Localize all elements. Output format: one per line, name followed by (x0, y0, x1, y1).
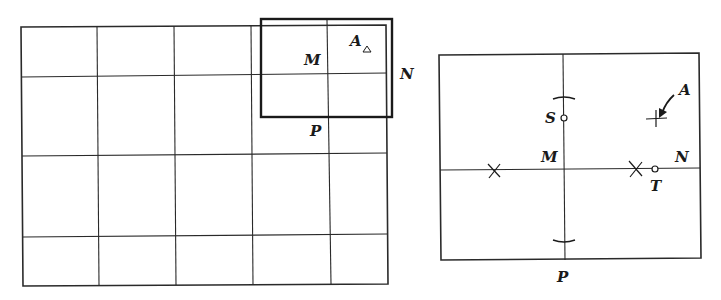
arrow-to-a (659, 95, 674, 118)
right-label-n: N (674, 148, 690, 166)
right-frame (439, 53, 701, 260)
point-s-circle (561, 115, 567, 121)
left-label-m: M (303, 51, 321, 69)
point-t-circle (652, 166, 658, 172)
left-label-p: P (309, 122, 322, 140)
arc-top (553, 97, 575, 99)
right-label-t: T (650, 177, 663, 195)
left-label-a: A (348, 32, 362, 50)
cross-mark-left (488, 164, 500, 178)
right-label-a: A (677, 81, 691, 99)
left-label-n: N (399, 65, 415, 83)
right-label-p: P (556, 268, 569, 286)
right-label-s: S (545, 109, 556, 127)
right-label-m: M (540, 148, 558, 166)
arc-bottom (553, 240, 575, 242)
left-triangle-marker (363, 46, 371, 52)
left-grid (21, 20, 388, 286)
diagram-canvas: A M N P A S M N T P (0, 0, 721, 300)
highlight-rectangle (261, 19, 392, 117)
